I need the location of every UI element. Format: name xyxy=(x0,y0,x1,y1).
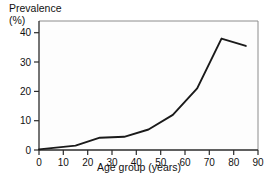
y-axis-ticks xyxy=(34,33,39,150)
x-axis-label: Age group (years) xyxy=(0,161,278,173)
x-axis-ticks xyxy=(39,150,258,155)
y-tick-label: 40 xyxy=(20,27,32,38)
y-tick-label: 20 xyxy=(20,86,32,97)
line-chart-plot: 0 10 20 30 40 0 10 20 30 40 50 6 xyxy=(0,0,278,182)
y-axis-tick-labels: 0 10 20 30 40 xyxy=(20,27,32,155)
y-tick-label: 0 xyxy=(25,145,31,156)
y-tick-label: 30 xyxy=(20,57,32,68)
chart-figure: Prevalence (%) 0 10 20 30 40 xyxy=(0,0,278,182)
y-tick-label: 10 xyxy=(20,115,32,126)
